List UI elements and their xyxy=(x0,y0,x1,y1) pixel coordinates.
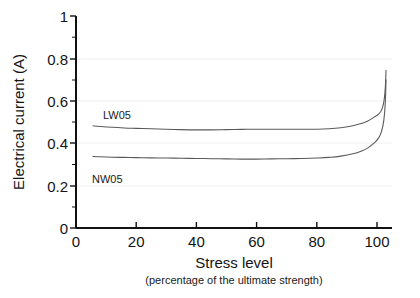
x-tick-label-20: 20 xyxy=(128,233,145,250)
series-line-lw05 xyxy=(93,70,386,130)
series-annotation-nw05: NW05 xyxy=(92,173,123,185)
y-tick-label-0.8: 0.8 xyxy=(47,51,68,68)
x-axis-subtitle: (percentage of the ultimate strength) xyxy=(145,274,322,286)
x-tick-label-0: 0 xyxy=(72,233,80,250)
y-tick-label-0.4: 0.4 xyxy=(47,135,68,152)
gridlines xyxy=(76,59,392,186)
y-tick-label-0.2: 0.2 xyxy=(47,178,68,195)
y-tick-label-1: 1 xyxy=(60,8,68,25)
chart-page: 1 0.8 0.6 0.4 0.2 0 0 20 40 60 80 100 LW… xyxy=(0,0,420,298)
x-tick-label-60: 60 xyxy=(248,233,265,250)
data-series-group xyxy=(93,70,386,159)
y-tick-label-0.6: 0.6 xyxy=(47,93,68,110)
x-axis-title: Stress level xyxy=(195,254,273,271)
y-tick-label-0: 0 xyxy=(60,220,68,237)
x-tick-label-80: 80 xyxy=(308,233,325,250)
y-axis-title: Electrical current (A) xyxy=(10,54,27,190)
series-line-nw05 xyxy=(93,80,386,160)
x-tick-label-100: 100 xyxy=(364,233,389,250)
y-axis xyxy=(70,16,76,228)
x-axis xyxy=(76,222,392,228)
x-tick-label-40: 40 xyxy=(188,233,205,250)
series-annotation-lw05: LW05 xyxy=(103,109,131,121)
line-chart: 1 0.8 0.6 0.4 0.2 0 0 20 40 60 80 100 LW… xyxy=(0,0,420,298)
